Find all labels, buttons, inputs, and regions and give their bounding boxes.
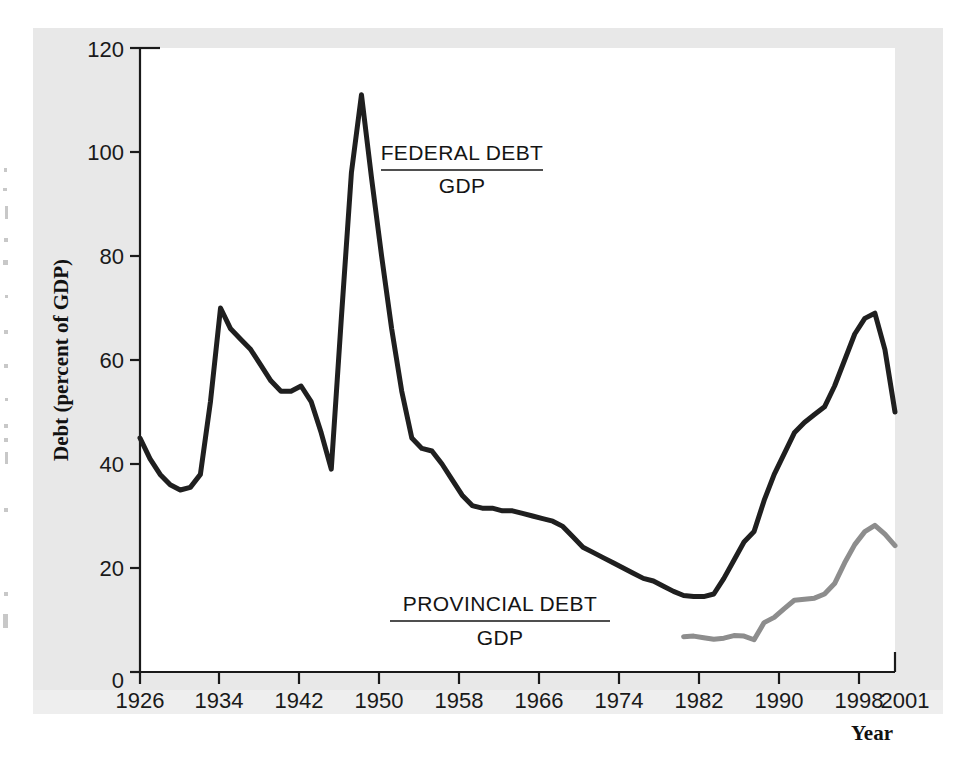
x-tick-label: 1958 <box>435 688 484 713</box>
x-tick-label: 1982 <box>675 688 724 713</box>
x-tick-label: 1966 <box>515 688 564 713</box>
y-tick-label: 120 <box>87 37 124 62</box>
y-axis-title: Debt (percent of GDP) <box>49 259 73 461</box>
y-axis-ticks <box>130 48 140 672</box>
x-tick-label: 1950 <box>355 688 404 713</box>
x-tick-label: 1998 <box>835 688 884 713</box>
y-tick-label: 100 <box>87 140 124 165</box>
y-tick-label: 80 <box>100 244 124 269</box>
provincial-debt-denominator: GDP <box>477 626 524 649</box>
x-axis-tick-labels: 1926 1934 1942 1950 1958 1966 1974 1982 … <box>116 688 930 713</box>
figure-page: 0 20 40 60 80 100 120 1926 1934 1942 1 <box>0 0 974 771</box>
y-tick-label: 60 <box>100 348 124 373</box>
y-tick-label: 20 <box>100 556 124 581</box>
debt-to-gdp-line-chart: 0 20 40 60 80 100 120 1926 1934 1942 1 <box>0 0 974 771</box>
federal-debt-numerator: FEDERAL DEBT <box>381 141 544 164</box>
x-tick-label: 1934 <box>195 688 244 713</box>
y-axis-tick-labels: 0 20 40 60 80 100 120 <box>87 37 124 693</box>
x-axis-ticks <box>140 672 859 684</box>
x-tick-label: 1926 <box>116 688 165 713</box>
x-tick-label: 1990 <box>755 688 804 713</box>
x-tick-label: 2001 <box>881 688 930 713</box>
x-axis-title: Year <box>851 721 893 745</box>
federal-debt-denominator: GDP <box>439 174 486 197</box>
y-tick-label: 40 <box>100 452 124 477</box>
x-tick-label: 1974 <box>595 688 644 713</box>
provincial-debt-numerator: PROVINCIAL DEBT <box>403 592 597 615</box>
x-tick-label: 1942 <box>275 688 324 713</box>
